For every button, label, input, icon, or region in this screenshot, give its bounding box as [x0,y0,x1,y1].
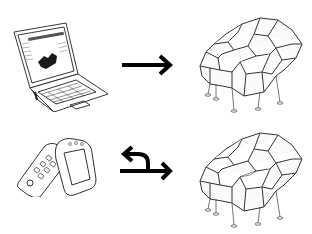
arrow-right-icon [120,52,176,78]
row-laptop [0,0,312,117]
laptop-icon [8,22,110,112]
voronoi-pavilion-icon [192,129,310,229]
mobile-phones-icon [14,135,98,197]
arrow-bidirectional-icon [118,143,176,181]
voronoi-pavilion-icon [192,14,310,114]
row-mobile [0,117,312,234]
